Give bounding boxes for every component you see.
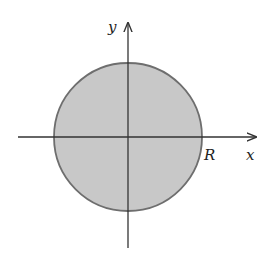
y-axis-label: y <box>107 18 117 36</box>
diagram-canvas: y x R <box>0 0 270 257</box>
radius-label: R <box>203 146 215 164</box>
x-axis-label: x <box>246 146 255 164</box>
